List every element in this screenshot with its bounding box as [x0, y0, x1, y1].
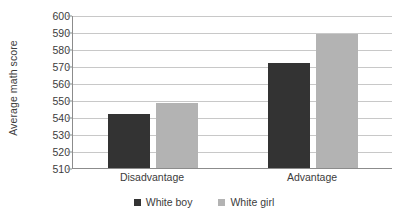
bars-layer: [73, 16, 392, 168]
bar-chart: Average math score 510520530540550560570…: [0, 0, 408, 219]
legend-label: White girl: [230, 196, 274, 208]
bar-advantage-white-boy: [268, 63, 310, 168]
legend-item-white-girl[interactable]: White girl: [218, 196, 274, 208]
x-axis-category-labels: DisadvantageAdvantage: [72, 171, 392, 189]
plot-area: [72, 16, 392, 169]
bar-advantage-white-girl: [316, 34, 358, 168]
y-axis-title-text: Average math score: [7, 40, 19, 136]
legend-swatch-icon: [134, 199, 141, 206]
y-axis-tick-labels: 510520530540550560570580590600: [36, 16, 70, 169]
bar-disadvantage-white-girl: [156, 103, 198, 168]
legend-label: White boy: [146, 196, 193, 208]
x-axis-category-label: Disadvantage: [120, 171, 184, 183]
gridline: [73, 169, 392, 170]
chart-legend: White boyWhite girl: [0, 196, 408, 208]
bar-disadvantage-white-boy: [108, 114, 150, 168]
legend-item-white-boy[interactable]: White boy: [134, 196, 193, 208]
legend-swatch-icon: [218, 199, 225, 206]
y-axis-title: Average math score: [0, 0, 26, 175]
x-axis-category-label: Advantage: [287, 171, 337, 183]
